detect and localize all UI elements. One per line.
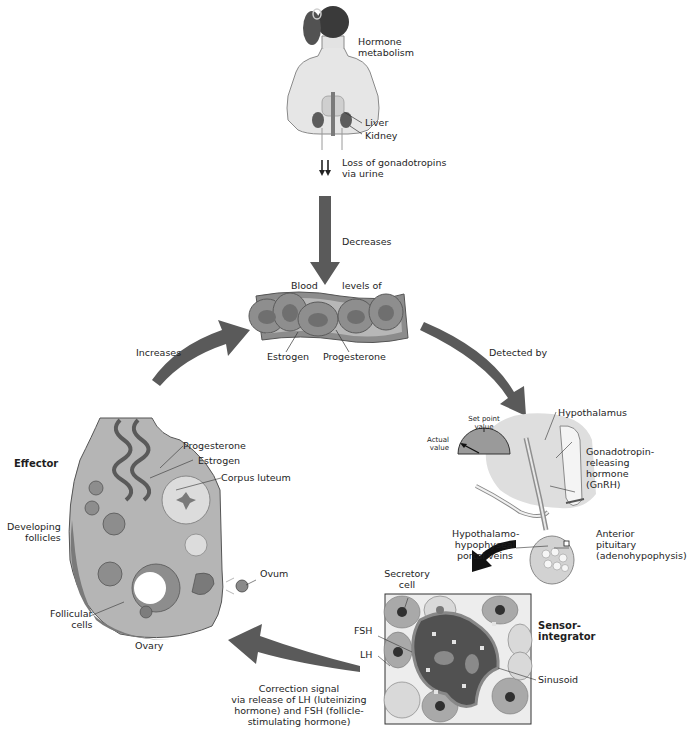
effector-label: Effector bbox=[14, 458, 58, 469]
detected-by-label: Detected by bbox=[489, 347, 547, 358]
human-figure-illustration bbox=[287, 6, 379, 150]
decreases-label: Decreases bbox=[342, 236, 392, 247]
progesterone-ovary-label: Progesterone bbox=[183, 440, 246, 451]
urine-arrows-icon bbox=[319, 160, 331, 176]
urine-loss-label: Loss of gonadotropins via urine bbox=[342, 157, 446, 179]
secretory-cell-label: Secretory cell bbox=[382, 568, 432, 590]
levels-of-label: levels of bbox=[342, 280, 382, 291]
follicular-cells-label: Follicular cells bbox=[50, 608, 92, 630]
estrogen-blood-label: Estrogen bbox=[267, 351, 309, 362]
portal-veins-label: Hypothalamo- hypophyseal portal veins bbox=[452, 528, 518, 561]
correction-signal-label: Correction signal via release of LH (lut… bbox=[224, 683, 374, 727]
blood-vessel-illustration bbox=[249, 292, 408, 352]
decreases-arrow bbox=[310, 196, 340, 285]
sensor-integrator-label: Sensor- integrator bbox=[538, 620, 596, 642]
sinusoid-label: Sinusoid bbox=[538, 674, 578, 685]
actual-value-label: Actual value bbox=[427, 436, 449, 452]
anterior-pituitary-label: Anterior pituitary (adenohypophysis) bbox=[596, 528, 687, 561]
ovary-illustration bbox=[69, 418, 248, 640]
correction-signal-arrow bbox=[228, 624, 360, 672]
fsh-label: FSH bbox=[354, 625, 372, 636]
set-point-label: Set point value bbox=[464, 415, 504, 431]
increases-label: Increases bbox=[136, 347, 181, 358]
progesterone-blood-label: Progesterone bbox=[323, 351, 386, 362]
hormone-metabolism-label: Hormone metabolism bbox=[358, 36, 414, 58]
detected-by-arrow bbox=[420, 322, 526, 416]
pituitary-tissue-inset bbox=[384, 594, 532, 724]
liver-label: Liver bbox=[365, 117, 388, 128]
corpus-luteum-label: Corpus luteum bbox=[221, 472, 291, 483]
kidney-label: Kidney bbox=[365, 130, 397, 141]
ovary-label: Ovary bbox=[135, 640, 163, 651]
developing-follicles-label: Developing follicles bbox=[7, 521, 61, 543]
ovum-label: Ovum bbox=[260, 568, 288, 579]
gnrh-label: Gonadotropin- releasing hormone (GnRH) bbox=[586, 446, 654, 490]
blood-label: Blood bbox=[291, 280, 318, 291]
estrogen-ovary-label: Estrogen bbox=[198, 455, 240, 466]
lh-label: LH bbox=[360, 649, 372, 660]
hypothalamus-label: Hypothalamus bbox=[558, 407, 627, 418]
